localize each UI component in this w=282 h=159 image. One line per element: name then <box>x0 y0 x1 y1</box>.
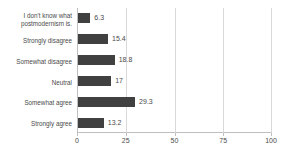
bar <box>78 13 90 23</box>
x-tick-label: 50 <box>171 136 179 145</box>
bar-value-label: 29.3 <box>135 98 153 106</box>
bar <box>78 34 108 44</box>
x-tick-label: 75 <box>219 136 227 145</box>
bar-value-label: 18.8 <box>115 56 133 64</box>
bar-row: 15.4 <box>77 29 272 50</box>
category-label: Strongly agree <box>6 120 72 128</box>
bar-row: 13.2 <box>77 112 272 133</box>
category-label: Neutral <box>6 79 72 87</box>
bar-row: 17 <box>77 71 272 92</box>
x-tick-label: 25 <box>122 136 130 145</box>
bar-row: 29.3 <box>77 91 272 112</box>
bar <box>78 118 104 128</box>
bar <box>78 97 135 107</box>
bar-value-label: 13.2 <box>104 119 122 127</box>
category-label: Somewhat disagree <box>6 58 72 66</box>
bar <box>78 55 115 65</box>
bar-row: 18.8 <box>77 50 272 71</box>
x-tick-label: 100 <box>265 136 277 145</box>
bar-value-label: 6.3 <box>90 14 104 22</box>
bar <box>78 76 111 86</box>
bar-chart: I don't know what postmodernism is. Stro… <box>0 0 282 159</box>
category-label: I don't know what postmodernism is. <box>6 12 72 28</box>
category-label: Somewhat agree <box>6 99 72 107</box>
category-label: Strongly disagree <box>6 37 72 45</box>
x-tick-label: 0 <box>75 136 79 145</box>
plot-area: 6.3 15.4 18.8 17 29.3 13.2 <box>77 8 272 133</box>
bar-value-label: 15.4 <box>108 35 126 43</box>
bar-value-label: 17 <box>111 77 123 85</box>
clipped-title-fragment <box>3 0 123 3</box>
bar-row: 6.3 <box>77 8 272 29</box>
